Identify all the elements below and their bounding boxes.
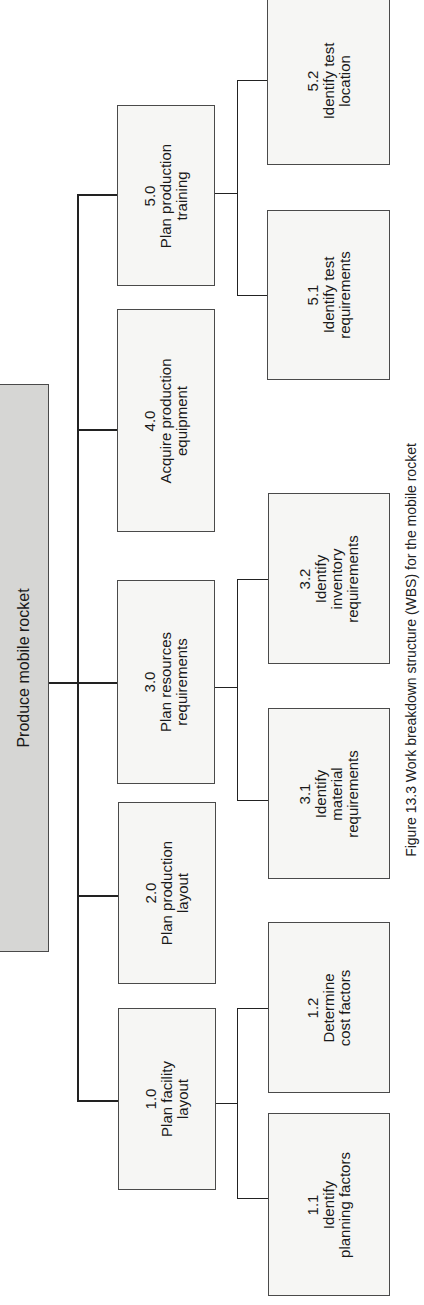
node-5-0-label: 5.0 Plan production training (142, 143, 190, 247)
node-5-2: 5.2 Identify test location (267, 0, 390, 165)
connector-3-sub-bar (237, 579, 238, 801)
connector-5-1 (237, 295, 268, 296)
connector-2-0 (77, 895, 118, 897)
node-2-0: 2.0 Plan production layout (118, 802, 216, 984)
connector-3-2 (237, 579, 268, 580)
node-1-0-label: 1.0 Plan facility layout (143, 1061, 191, 1137)
connector-1-1 (237, 1198, 268, 1199)
connector-5-sub-bar (237, 80, 238, 296)
root-connector (49, 682, 79, 684)
node-1-2: 1.2 Determine cost factors (268, 922, 390, 1093)
connector-5-0 (77, 194, 118, 196)
connector-1-2 (237, 1008, 268, 1009)
node-3-0: 3.0 Plan resources requirements (117, 580, 215, 784)
node-1-0: 1.0 Plan facility layout (118, 1008, 216, 1190)
node-5-1-label: 5.1 Identify test requirements (305, 251, 353, 339)
node-4-0-label: 4.0 Acquire production equipment (142, 358, 190, 483)
connector-5-sub-stem (215, 193, 238, 194)
connector-1-sub-stem (215, 1103, 238, 1104)
node-2-0-label: 2.0 Plan production layout (143, 841, 191, 945)
node-3-1-label: 3.1 Identify material requirements (297, 750, 361, 838)
node-5-0: 5.0 Plan production training (117, 105, 215, 286)
connector-1-0 (77, 1100, 118, 1102)
root-node: Produce mobile rocket (0, 384, 49, 952)
node-3-2-label: 3.2 Identify inventory requirements (297, 535, 361, 623)
connector-3-1 (237, 800, 268, 801)
connector-5-2 (237, 80, 268, 81)
figure-caption-text: Figure 13.3 Work breakdown structure (WB… (403, 443, 419, 857)
node-3-0-label: 3.0 Plan resources requirements (142, 632, 190, 732)
connector-3-sub-stem (215, 687, 238, 688)
figure-caption: Figure 13.3 Work breakdown structure (WB… (396, 250, 424, 1050)
node-1-2-label: 1.2 Determine cost factors (305, 969, 353, 1046)
connector-1-sub-bar (237, 1008, 238, 1199)
node-1-1: 1.1 Identify planning factors (268, 1113, 390, 1296)
root-node-label: Produce mobile rocket (16, 588, 32, 747)
node-3-2: 3.2 Identify inventory requirements (268, 493, 390, 664)
node-4-0: 4.0 Acquire production equipment (117, 309, 215, 532)
node-1-1-label: 1.1 Identify planning factors (305, 1152, 353, 1258)
trunk-line (77, 195, 79, 1102)
connector-3-0 (77, 682, 118, 684)
node-5-2-label: 5.2 Identify test location (305, 43, 353, 120)
node-3-1: 3.1 Identify material requirements (268, 708, 390, 879)
node-5-1: 5.1 Identify test requirements (267, 210, 390, 380)
connector-4-0 (77, 429, 118, 431)
